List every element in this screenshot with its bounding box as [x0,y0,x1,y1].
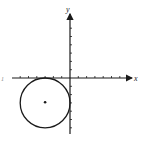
left-edge-label: 1 [1,76,4,82]
circle-center-point [44,101,47,104]
x-axis-label: x [133,74,138,83]
coordinate-diagram: x y 1 [0,0,141,142]
y-axis-label: y [65,5,70,14]
